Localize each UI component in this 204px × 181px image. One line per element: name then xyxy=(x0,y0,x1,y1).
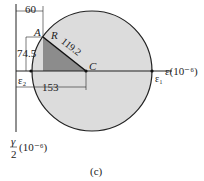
label-a: A xyxy=(34,27,41,38)
dim-60: 60 xyxy=(25,4,36,15)
dim-153: 153 xyxy=(42,82,59,93)
label-r: R xyxy=(51,30,58,41)
point-c xyxy=(84,69,87,72)
label-e2: ε₂ xyxy=(18,75,26,86)
dim-74: 74.5 xyxy=(17,48,36,59)
label-c: C xyxy=(89,61,96,72)
x-axis-label: ε(10⁻⁶) xyxy=(165,66,198,77)
point-e1 xyxy=(150,69,153,72)
caption: (c) xyxy=(90,166,102,177)
point-e2 xyxy=(29,69,32,72)
y-label-den: 2 xyxy=(11,149,17,160)
y-axis-label: (10⁻⁶) xyxy=(19,142,47,153)
y-label-num: γ xyxy=(11,136,15,147)
mohr-circle-diagram xyxy=(0,0,204,181)
label-e1: ε₁ xyxy=(155,74,163,84)
